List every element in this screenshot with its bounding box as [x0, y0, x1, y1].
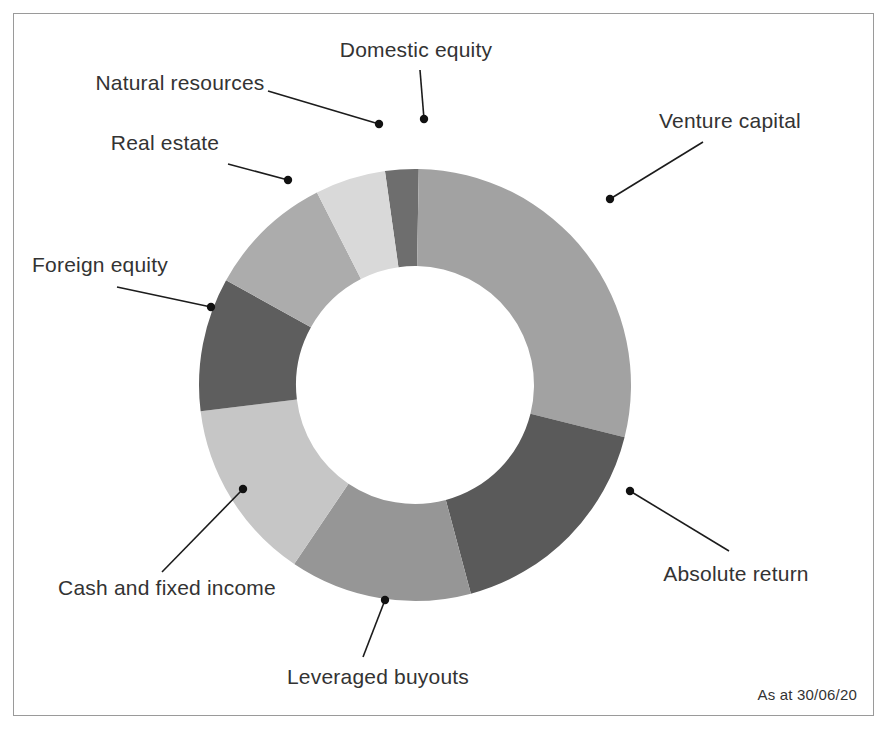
- slice-label: Real estate: [111, 131, 219, 154]
- leader-dot: [420, 115, 428, 123]
- leader-dot: [626, 487, 634, 495]
- slice-label: Domestic equity: [340, 38, 493, 61]
- donut-slice[interactable]: [417, 169, 631, 437]
- leader-line: [268, 91, 379, 124]
- slice-label: Leveraged buyouts: [287, 665, 469, 688]
- as-at-date-footnote: As at 30/06/20: [757, 686, 857, 703]
- chart-page: Domestic equityVenture capitalAbsolute r…: [0, 0, 889, 731]
- leader-line: [420, 70, 424, 119]
- leader-dot: [207, 303, 215, 311]
- leader-dot: [284, 176, 292, 184]
- leader-dot: [239, 485, 247, 493]
- slice-label: Foreign equity: [32, 253, 168, 276]
- slice-label: Venture capital: [659, 109, 801, 132]
- slice-label: Cash and fixed income: [58, 576, 276, 599]
- slice-label: Natural resources: [95, 71, 264, 94]
- donut-slices-group: [199, 169, 631, 601]
- slice-label: Absolute return: [663, 562, 808, 585]
- leader-dot: [381, 596, 389, 604]
- leader-line: [610, 142, 703, 199]
- leader-line: [162, 489, 243, 572]
- leader-line: [117, 287, 211, 307]
- leader-line: [228, 164, 288, 180]
- leader-dot: [606, 195, 614, 203]
- leader-line: [630, 491, 729, 551]
- leader-dot: [375, 120, 383, 128]
- donut-slice[interactable]: [446, 414, 625, 594]
- donut-chart: Domestic equityVenture capitalAbsolute r…: [0, 0, 889, 731]
- leader-line: [363, 600, 385, 657]
